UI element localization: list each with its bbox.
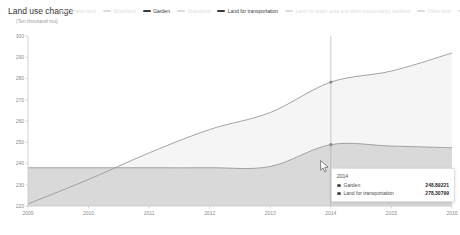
y-axis-tick-label: 290 — [16, 54, 25, 60]
legend-swatch-icon — [177, 10, 185, 13]
tooltip-series-dot-icon — [337, 192, 341, 196]
chart-tooltip: 2014 Garden248.89221Land for transportat… — [331, 168, 455, 202]
legend-item-3[interactable]: Grassland — [177, 8, 210, 14]
legend-item-4[interactable]: Land for transportation — [217, 8, 278, 14]
chart-page: Land use change (Ten thousand mu) Arable… — [0, 0, 460, 235]
tooltip-series-name: Land for transportation — [344, 190, 394, 197]
tooltip-series-dot-icon — [337, 184, 341, 188]
tooltip-row: Garden248.89221 — [337, 182, 449, 189]
legend-item-1[interactable]: Woodland — [103, 8, 136, 14]
crosshair-point-1 — [329, 80, 332, 83]
legend-item-label: Garden — [153, 8, 170, 14]
legend-item-label: Woodland — [113, 8, 135, 14]
chart-subtitle: (Ten thousand mu) — [16, 18, 58, 24]
y-axis-tick-label: 250 — [16, 139, 25, 145]
y-axis-tick-label: 220 — [16, 203, 25, 209]
x-axis-tick-label: 2012 — [204, 210, 215, 216]
y-axis-tick-label: 230 — [16, 182, 25, 188]
legend-swatch-icon — [143, 10, 151, 13]
tooltip-series-name: Garden — [344, 182, 361, 189]
x-axis-tick-label: 2014 — [325, 210, 336, 216]
legend-swatch-icon — [285, 10, 293, 13]
legend-item-label: Land for water area and other conservanc… — [296, 8, 411, 14]
legend-swatch-icon — [60, 10, 68, 13]
y-axis-tick-label: 300 — [16, 33, 25, 39]
legend-item-label: Land for transportation — [228, 8, 278, 14]
legend-item-2[interactable]: Garden — [143, 8, 170, 14]
x-axis-tick-label: 2015 — [386, 210, 397, 216]
x-axis-tick-label: 2011 — [144, 210, 155, 216]
y-axis-tick-label: 270 — [16, 97, 25, 103]
tooltip-year: 2014 — [337, 173, 449, 179]
x-axis-tick-label: 2016 — [446, 210, 457, 216]
legend-swatch-icon — [417, 10, 425, 13]
legend-item-label: Arable land — [71, 8, 96, 14]
legend-item-label: Other land — [428, 8, 451, 14]
x-axis-tick-label: 2009 — [22, 210, 33, 216]
crosshair-point-0 — [329, 143, 332, 146]
x-axis-tick-label: 2013 — [265, 210, 276, 216]
chart-legend: Arable landWoodlandGardenGrasslandLand f… — [60, 8, 458, 14]
y-axis-tick-label: 280 — [16, 75, 25, 81]
legend-swatch-icon — [217, 10, 225, 13]
y-axis-tick-label: 240 — [16, 160, 25, 166]
x-axis-tick-label: 2010 — [83, 210, 94, 216]
legend-item-6[interactable]: Other land — [417, 8, 451, 14]
legend-swatch-icon — [103, 10, 111, 13]
legend-item-label: Grassland — [187, 8, 210, 14]
tooltip-rows: Garden248.89221Land for transportation27… — [337, 182, 449, 197]
legend-item-0[interactable]: Arable land — [60, 8, 96, 14]
y-axis-tick-label: 260 — [16, 118, 25, 124]
tooltip-series-value: 278.30799 — [425, 190, 449, 197]
legend-item-5[interactable]: Land for water area and other conservanc… — [285, 8, 410, 14]
tooltip-row: Land for transportation278.30799 — [337, 190, 449, 197]
tooltip-series-value: 248.89221 — [425, 182, 449, 189]
